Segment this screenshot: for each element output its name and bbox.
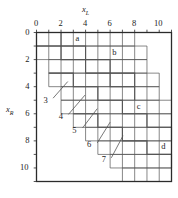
- x-tick-label-0: 0: [34, 19, 38, 28]
- region-label-b: b: [112, 48, 116, 57]
- leader-line-4: [68, 95, 85, 114]
- x-tick-label-10: 10: [154, 19, 163, 28]
- leader-label-5: 5: [72, 126, 76, 135]
- y-axis-title: xR: [6, 104, 13, 116]
- leader-line-6: [97, 122, 110, 143]
- leader-line-5: [83, 109, 98, 128]
- y-tick-label-2: 2: [25, 55, 29, 64]
- leader-label-6: 6: [87, 140, 91, 149]
- region-label-a: a: [75, 34, 79, 43]
- y-axis-title-sub: R: [10, 110, 14, 116]
- x-tick-label-6: 6: [108, 19, 112, 28]
- region-label-d: d: [161, 142, 165, 151]
- x-tick-label-4: 4: [83, 19, 87, 28]
- x-axis-title: xL: [82, 4, 89, 16]
- y-tick-label-10: 10: [20, 163, 29, 172]
- x-tick-label-8: 8: [132, 19, 136, 28]
- leader-line-3: [53, 82, 68, 99]
- y-tick-label-0: 0: [25, 28, 29, 37]
- leader-label-3: 3: [44, 96, 48, 105]
- x-axis-title-sub: L: [86, 10, 89, 16]
- y-tick-label-4: 4: [25, 82, 29, 91]
- figure-container: xL xR 0246810 0246810 abcd 34567: [0, 0, 178, 198]
- x-tick-label-2: 2: [58, 19, 62, 28]
- leader-label-7: 7: [102, 155, 106, 164]
- y-tick-label-6: 6: [25, 109, 29, 118]
- region-label-c: c: [137, 102, 141, 111]
- leader-label-4: 4: [59, 112, 63, 121]
- y-tick-label-8: 8: [25, 136, 29, 145]
